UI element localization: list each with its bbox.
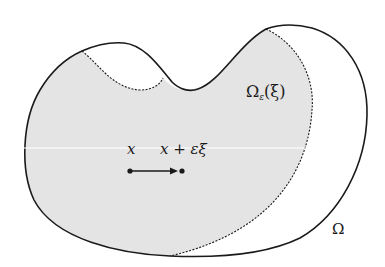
subdomain-argument: (ξ)	[264, 82, 285, 101]
point-x-label: x	[127, 142, 135, 157]
point-x	[127, 168, 132, 173]
subdomain-symbol: Ω	[246, 82, 259, 101]
domain-diagram	[0, 0, 385, 267]
shifted-point-label: x + εξ	[160, 142, 207, 157]
subdomain-label: Ωε(ξ)	[246, 84, 285, 102]
domain-label: Ω	[332, 222, 344, 237]
point-x-shifted	[179, 168, 184, 173]
